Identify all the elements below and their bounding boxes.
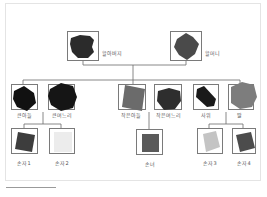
person-eldest-son[interactable]: [11, 84, 38, 110]
person-grandchild-3[interactable]: [197, 128, 223, 154]
label-grandchild-3: 손자3: [203, 160, 216, 166]
label-grandchild-1: 손자1: [17, 160, 30, 166]
label-eldest-son: 큰아들: [17, 112, 32, 118]
label-granddaughter: 손녀: [145, 161, 155, 167]
photo-eldest-daughter-in-law-icon: [47, 81, 79, 111]
label-grandmother: 할머니: [205, 50, 220, 56]
photo-granddaughter-icon: [137, 130, 164, 156]
person-granddaughter[interactable]: [136, 129, 163, 155]
person-grandchild-1[interactable]: [11, 128, 38, 154]
label-son-in-law: 사위: [201, 112, 211, 118]
label-daughter: 딸: [237, 112, 242, 118]
person-son-in-law[interactable]: [193, 84, 219, 110]
label-younger-son: 작은아들: [121, 112, 141, 118]
photo-grandmother-icon: [171, 32, 201, 60]
photo-younger-daughter-in-law-icon: [155, 85, 183, 111]
label-younger-daughter-in-law: 작은며느리: [156, 112, 181, 118]
photo-eldest-son-icon: [12, 85, 39, 111]
photo-grandchild-4-icon: [233, 129, 257, 155]
photo-daughter-icon: [228, 81, 258, 111]
photo-grandchild-2-icon: [50, 129, 76, 155]
photo-younger-son-icon: [119, 83, 149, 111]
photo-grandfather-icon: [68, 32, 98, 60]
person-eldest-daughter-in-law[interactable]: [48, 84, 75, 110]
person-younger-son[interactable]: [118, 84, 146, 110]
label-grandfather: 할아버지: [102, 50, 122, 56]
label-grandchild-2: 손자2: [55, 160, 68, 166]
person-grandchild-4[interactable]: [232, 128, 256, 154]
person-younger-daughter-in-law[interactable]: [154, 84, 182, 110]
photo-son-in-law-icon: [194, 85, 220, 111]
person-daughter[interactable]: [228, 84, 254, 110]
person-grandchild-2[interactable]: [49, 128, 75, 154]
person-grandmother[interactable]: [170, 31, 202, 61]
photo-grandchild-1-icon: [12, 129, 39, 155]
label-grandchild-4: 손자4: [237, 160, 250, 166]
label-eldest-daughter-in-law: 큰며느리: [52, 112, 72, 118]
person-grandfather[interactable]: [67, 31, 99, 61]
photo-grandchild-3-icon: [198, 129, 224, 155]
caption-underline: [6, 187, 56, 188]
